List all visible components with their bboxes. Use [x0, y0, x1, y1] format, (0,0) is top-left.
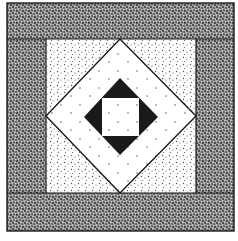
quilt-block-figure	[0, 0, 238, 241]
inner-square	[102, 98, 139, 136]
right-band	[196, 39, 234, 193]
quilt-block-svg	[0, 0, 238, 241]
bottom-band	[7, 193, 234, 231]
top-band	[7, 3, 234, 39]
left-band	[7, 39, 46, 193]
